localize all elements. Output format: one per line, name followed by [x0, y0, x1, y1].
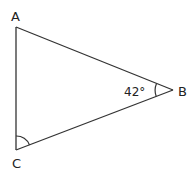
side-ab: [16, 27, 173, 90]
angle-arc-c: [16, 136, 30, 145]
vertex-label-b: B: [178, 84, 187, 99]
angle-label-b: 42°: [124, 85, 145, 99]
vertex-label-c: C: [12, 156, 21, 171]
angle-arc-b: [155, 83, 156, 96]
side-cb: [16, 90, 173, 150]
triangle-diagram: A B C 42°: [0, 0, 195, 179]
vertex-label-a: A: [11, 9, 20, 24]
